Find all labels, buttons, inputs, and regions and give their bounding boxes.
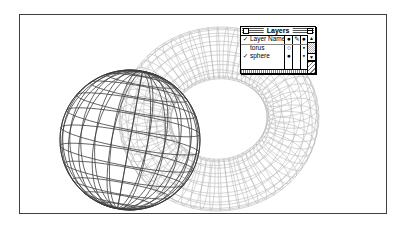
visibility-toggle-icon[interactable]: ●: [285, 52, 293, 60]
layer-row-torus[interactable]: torus ○ ▪: [241, 44, 307, 52]
vertical-scrollbar[interactable]: ▲ ▼: [307, 35, 315, 73]
visibility-column-icon: ●: [285, 35, 293, 43]
header-check-icon: ✓: [242, 35, 249, 43]
layer-row-sphere[interactable]: ✓ sphere ● ▪: [241, 52, 307, 60]
pencil-icon: ✎: [293, 35, 301, 43]
scroll-down-icon[interactable]: ▼: [308, 53, 315, 61]
close-box-icon[interactable]: [243, 28, 249, 34]
scroll-up-icon[interactable]: ▲: [308, 35, 315, 43]
collapse-box-icon[interactable]: [307, 28, 313, 34]
wireframe-canvas[interactable]: [0, 0, 397, 234]
horizontal-scrollbar[interactable]: [241, 69, 307, 73]
layer-name[interactable]: sphere: [250, 52, 284, 60]
layers-palette: Layers ✓ Layer Name ● ✎ ● torus ○ ▪ ✓ sp…: [240, 26, 316, 74]
palette-title: Layers: [264, 27, 293, 35]
layer-name[interactable]: torus: [250, 44, 284, 52]
header-name-label: Layer Name: [250, 35, 284, 43]
grow-box-icon[interactable]: [308, 61, 315, 73]
visibility-toggle-icon[interactable]: ○: [285, 44, 293, 52]
layer-check[interactable]: [242, 44, 249, 52]
layer-check[interactable]: ✓: [242, 52, 249, 60]
palette-body: ✓ Layer Name ● ✎ ● torus ○ ▪ ✓ sphere ● …: [241, 35, 315, 73]
